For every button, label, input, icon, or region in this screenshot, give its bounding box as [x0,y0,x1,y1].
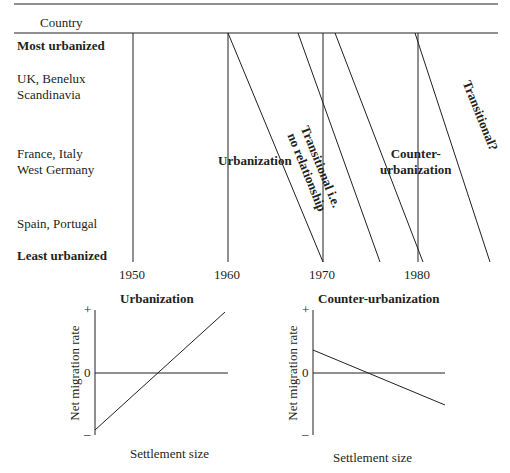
phase-counter-line1: Counter- [380,146,452,162]
row-france-italy-2: West Germany [17,162,94,178]
left-y-label: Net migration rate [67,313,83,433]
left-chart-title: Urbanization [120,291,194,307]
phase-urbanization: Urbanization [218,153,292,169]
row-uk-benelux-1: UK, Benelux [17,71,86,87]
row-least-urbanized: Least urbanized [17,248,107,264]
right-trend-line [313,350,445,405]
year-1950: 1950 [119,267,145,283]
left-zero-tick: 0 [84,365,91,381]
year-1980: 1980 [404,267,430,283]
row-france-italy-1: France, Italy [17,146,83,162]
left-minus-tick: – [84,426,91,442]
row-most-urbanized: Most urbanized [17,38,105,54]
right-y-label: Net migration rate [285,313,301,433]
right-plus-tick: + [302,302,309,318]
phase-counter-line2: urbanization [380,162,452,178]
year-1970: 1970 [309,267,335,283]
left-trend-line [95,312,225,430]
right-minus-tick: – [302,426,309,442]
left-plus-tick: + [84,302,91,318]
country-header: Country [40,15,83,31]
phase-counter-urbanization: Counter- urbanization [380,146,452,178]
left-x-label: Settlement size [130,446,209,462]
right-zero-tick: 0 [302,365,309,381]
right-chart-title: Counter-urbanization [318,291,440,307]
right-x-label: Settlement size [333,450,412,466]
year-1960: 1960 [214,267,240,283]
row-spain-portugal: Spain, Portugal [17,216,97,232]
row-uk-benelux-2: Scandinavia [17,87,81,103]
